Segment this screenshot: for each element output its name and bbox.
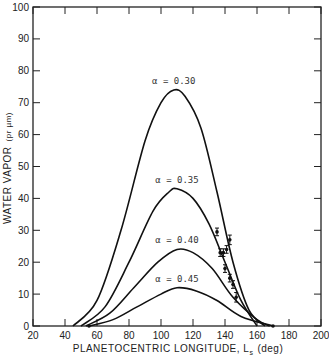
x-axis-label: PLANETOCENTRIC LONGITUDE, Ls(deg) (73, 343, 284, 356)
y-tick-label: 70 (18, 97, 30, 108)
x-tick-label: 120 (185, 330, 202, 341)
observation-point (215, 230, 219, 234)
y-tick-label: 90 (18, 33, 30, 44)
model-curves (73, 90, 273, 326)
observation-point (228, 276, 232, 280)
y-tick-label: 80 (18, 65, 30, 76)
y-tick-label: 100 (12, 2, 29, 13)
water-vapor-chart: 2040608010012014016018020001020304050607… (0, 0, 329, 362)
observation-point (234, 295, 238, 299)
y-tick-label: 0 (23, 321, 29, 332)
y-tick-label: 10 (18, 289, 30, 300)
x-tick-label: 160 (249, 330, 266, 341)
x-tick-label: 20 (27, 330, 39, 341)
y-tick-label: 30 (18, 225, 30, 236)
curve-label: α = 0.30 (152, 76, 195, 86)
curve-label: α = 0.35 (155, 175, 198, 185)
x-tick-label: 140 (217, 330, 234, 341)
y-tick-label: 20 (18, 257, 30, 268)
observation-point (223, 267, 227, 271)
x-tick-label: 60 (91, 330, 103, 341)
curve-label: α = 0.45 (155, 274, 198, 284)
x-tick-label: 40 (59, 330, 71, 341)
x-tick-label: 100 (153, 330, 170, 341)
observation-point (228, 238, 232, 242)
curve-label: α = 0.40 (155, 235, 198, 245)
y-tick-label: 50 (18, 161, 30, 172)
x-tick-label: 80 (123, 330, 135, 341)
observation-point (231, 283, 235, 287)
observation-point (225, 248, 229, 252)
x-tick-label: 200 (313, 330, 329, 341)
observation-point (222, 251, 226, 255)
y-tick-label: 40 (18, 193, 30, 204)
observation-point (271, 324, 275, 328)
y-tick-label: 60 (18, 129, 30, 140)
x-tick-label: 180 (281, 330, 298, 341)
y-axis-label: WATER VAPOR(pr µm) (2, 112, 13, 224)
model-curve (81, 188, 257, 326)
observation-point (87, 324, 91, 328)
observation-point (218, 251, 222, 255)
